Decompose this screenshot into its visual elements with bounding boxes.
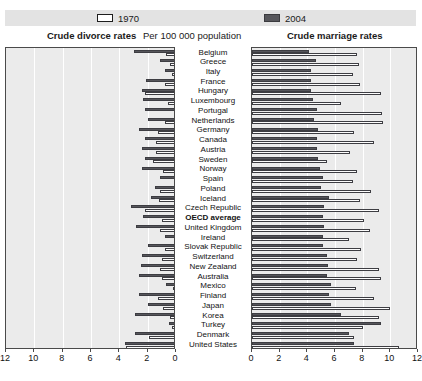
bar-divorce-2004 (136, 225, 175, 228)
bar-marriage-1970 (252, 170, 357, 173)
country-label: Greece (176, 57, 250, 66)
bar-marriage-1970 (252, 83, 360, 86)
bar-divorce-2004 (146, 79, 175, 82)
bar-divorce-2004 (148, 303, 175, 306)
country-label: Iceland (176, 194, 250, 203)
bar-marriage-2004 (252, 108, 317, 111)
bar-divorce-2004 (142, 167, 175, 170)
bar-divorce-1970 (175, 112, 176, 115)
bar-divorce-1970 (153, 160, 175, 163)
axis-tick-label: 8 (59, 353, 64, 363)
bar-divorce-2004 (145, 137, 175, 140)
bar-divorce-1970 (158, 297, 175, 300)
bar-marriage-1970 (252, 258, 357, 261)
bar-divorce-1970 (162, 258, 175, 261)
axis-tick (417, 349, 418, 352)
bar-marriage-2004 (252, 157, 318, 160)
bar-marriage-1970 (252, 63, 359, 66)
bar-marriage-1970 (252, 316, 379, 319)
bar-divorce-1970 (165, 83, 175, 86)
bar-marriage-1970 (252, 199, 360, 202)
bar-marriage-2004 (252, 128, 318, 131)
axis-tick-label: 4 (116, 353, 121, 363)
bar-marriage-2004 (252, 118, 314, 121)
country-label: Korea (176, 311, 250, 320)
bar-divorce-1970 (156, 151, 175, 154)
axis-tick-label: 4 (304, 353, 309, 363)
axis-tick-label: 10 (28, 353, 38, 363)
bar-divorce-2004 (143, 215, 175, 218)
axis-tick (251, 349, 252, 352)
country-label: Denmark (176, 330, 250, 339)
bar-marriage-2004 (252, 79, 311, 82)
axis-tick-label: 2 (144, 353, 149, 363)
gridline (91, 48, 92, 348)
bar-divorce-1970 (170, 316, 175, 319)
bar-divorce-2004 (134, 50, 176, 53)
country-label: Hungary (176, 86, 250, 95)
bar-marriage-2004 (252, 342, 354, 345)
bar-divorce-1970 (175, 238, 176, 241)
bar-marriage-2004 (252, 225, 324, 228)
gridline (34, 48, 35, 348)
bar-divorce-2004 (125, 342, 175, 345)
country-label: Italy (176, 67, 250, 76)
legend-swatch-light-square-icon (97, 14, 113, 22)
bar-divorce-1970 (158, 131, 175, 134)
bar-divorce-1970 (162, 219, 175, 222)
country-label: New Zealand (176, 262, 250, 271)
country-label: Sweden (176, 155, 250, 164)
country-label: Canada (176, 135, 250, 144)
bar-marriage-2004 (252, 50, 309, 53)
bar-marriage-1970 (252, 268, 379, 271)
column-headers: Crude divorce rates Per 100 000 populati… (0, 30, 421, 44)
axis-tick-label: 6 (331, 353, 336, 363)
bar-marriage-1970 (252, 326, 363, 329)
country-label: Australia (176, 272, 250, 281)
bar-divorce-2004 (160, 176, 175, 179)
bar-marriage-2004 (252, 303, 331, 306)
legend-item-1970: 1970 (97, 13, 139, 24)
bar-marriage-1970 (252, 53, 357, 56)
bar-marriage-1970 (252, 160, 327, 163)
bar-divorce-2004 (166, 283, 175, 286)
axis-tick (389, 349, 390, 352)
bar-marriage-2004 (252, 283, 331, 286)
country-label: Turkey (176, 320, 250, 329)
left-panel-title: Crude divorce rates (47, 30, 136, 41)
bar-marriage-2004 (252, 264, 328, 267)
bar-divorce-1970 (175, 180, 176, 183)
country-label: Mexico (176, 281, 250, 290)
bar-divorce-1970 (145, 209, 175, 212)
bar-divorce-1970 (156, 141, 175, 144)
bar-marriage-2004 (252, 89, 311, 92)
bar-divorce-2004 (142, 147, 175, 150)
axis-tick-label: 0 (172, 353, 177, 363)
axis-tick (118, 349, 119, 352)
bar-marriage-1970 (252, 219, 364, 222)
bar-divorce-1970 (163, 170, 175, 173)
axis-tick (147, 349, 148, 352)
bar-divorce-2004 (139, 128, 175, 131)
country-label: Germany (176, 125, 250, 134)
bar-marriage-2004 (252, 332, 349, 335)
bar-marriage-1970 (252, 92, 381, 95)
bar-marriage-1970 (252, 248, 361, 251)
divorce-rates-plot (5, 47, 175, 349)
axis-tick (90, 349, 91, 352)
bar-divorce-1970 (160, 268, 175, 271)
bar-marriage-2004 (252, 235, 323, 238)
bar-divorce-1970 (159, 199, 175, 202)
axis-tick-label: 2 (276, 353, 281, 363)
bar-marriage-1970 (252, 121, 383, 124)
axis-tick-label: 0 (248, 353, 253, 363)
bar-divorce-1970 (165, 248, 175, 251)
legend-label-1970: 1970 (118, 13, 139, 24)
bar-marriage-2004 (252, 313, 341, 316)
bar-marriage-2004 (252, 293, 329, 296)
bar-marriage-2004 (252, 215, 323, 218)
axis-tick-label: 10 (384, 353, 394, 363)
axis-tick (362, 349, 363, 352)
bar-marriage-2004 (252, 274, 327, 277)
bar-divorce-2004 (141, 264, 175, 267)
